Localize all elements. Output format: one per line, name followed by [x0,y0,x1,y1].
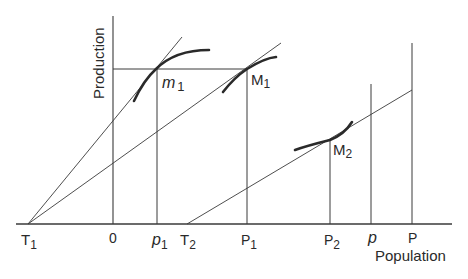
label-p: p [367,229,377,246]
label-M2: M2 [333,141,353,161]
label-p1: p1 [151,231,168,252]
label-P: P [408,230,417,246]
label-origin: 0 [109,230,117,246]
label-m1: m1 [162,74,185,94]
ray-T2-M2 [187,90,412,224]
label-T1: T1 [21,231,37,252]
label-T2: T2 [180,231,196,252]
label-P1: P1 [241,232,257,252]
label-M1: M1 [251,71,271,91]
x-axis-label: Population [375,247,446,264]
production-population-diagram: Production Population T1 0 p1 T2 P1 P2 p… [0,0,468,279]
y-axis-label: Production [90,27,107,99]
label-P2: P2 [324,232,340,252]
